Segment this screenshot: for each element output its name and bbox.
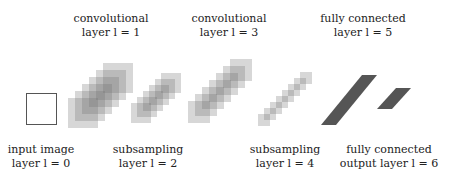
- label-line2: layer l = 1: [73, 26, 148, 40]
- fully-connected-output-layer-6: [377, 88, 411, 109]
- label-line2: layer l = 0: [8, 157, 75, 171]
- label-line1: input image: [8, 143, 75, 157]
- fully-connected-layer-5: [321, 75, 377, 125]
- label-line1: fully connected: [320, 12, 406, 26]
- label-subsampling-layer-4: subsampling layer l = 4: [250, 143, 321, 171]
- label-line2: layer l = 5: [320, 26, 406, 40]
- label-subsampling-layer-2: subsampling layer l = 2: [113, 143, 184, 171]
- label-conv-layer-1: convolutional layer l = 1: [73, 12, 148, 40]
- label-line1: subsampling: [113, 143, 184, 157]
- label-output-layer-6: fully connected output layer l = 6: [340, 143, 438, 171]
- label-line1: convolutional: [73, 12, 148, 26]
- label-line1: convolutional: [191, 12, 266, 26]
- label-conv-layer-3: convolutional layer l = 3: [191, 12, 266, 40]
- label-line2: layer l = 3: [191, 26, 266, 40]
- label-line2: layer l = 2: [113, 157, 184, 171]
- label-fc-layer-5: fully connected layer l = 5: [320, 12, 406, 40]
- label-input-layer-0: input image layer l = 0: [8, 143, 75, 171]
- label-line1: subsampling: [250, 143, 321, 157]
- label-line2: output layer l = 6: [340, 157, 438, 171]
- label-line1: fully connected: [340, 143, 438, 157]
- label-line2: layer l = 4: [250, 157, 321, 171]
